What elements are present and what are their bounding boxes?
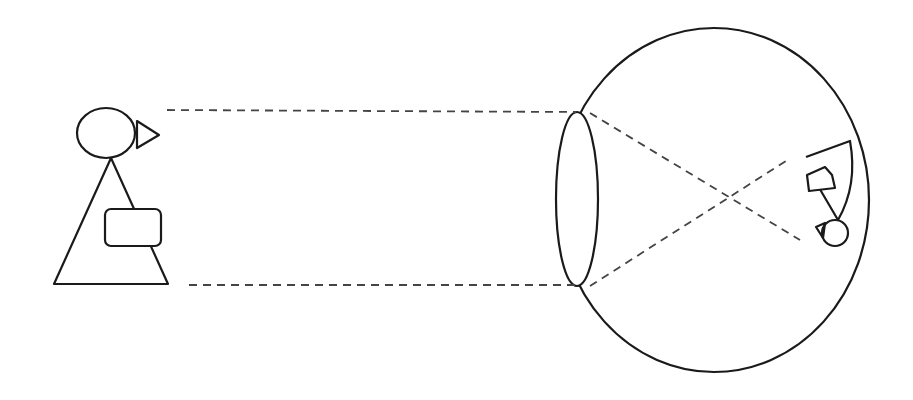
inverted-sign — [807, 167, 835, 191]
person-head — [77, 108, 135, 158]
person-sign-rect — [105, 209, 161, 246]
eyeball — [559, 28, 869, 372]
object-person — [54, 108, 168, 284]
ray-bottom-crossing — [590, 161, 786, 286]
light-rays — [167, 110, 800, 286]
ray-top-incoming — [167, 110, 576, 112]
retina-inverted-image — [806, 141, 852, 246]
lens — [556, 112, 598, 286]
person-nose-triangle — [137, 121, 159, 148]
inverted-nose — [816, 223, 825, 238]
eye-diagram — [0, 0, 913, 400]
ray-top-crossing — [590, 113, 800, 240]
